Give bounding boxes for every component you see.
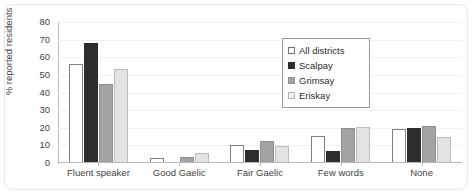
bar[interactable] bbox=[260, 141, 274, 162]
bar-group-bars bbox=[381, 21, 462, 162]
y-tick-label: 30 bbox=[12, 105, 50, 115]
x-tick-label: Few words bbox=[300, 167, 381, 178]
y-tick-label: 20 bbox=[12, 123, 50, 133]
x-tick-label: Good Gaelic bbox=[139, 167, 220, 178]
bar[interactable] bbox=[114, 69, 128, 162]
legend-item-label: All districts bbox=[299, 45, 344, 56]
bar[interactable] bbox=[245, 150, 259, 162]
bar[interactable] bbox=[407, 128, 421, 162]
y-tick-label: 10 bbox=[12, 140, 50, 150]
bar-group: None bbox=[381, 21, 462, 162]
y-tick-label: 60 bbox=[12, 52, 50, 62]
bar[interactable] bbox=[275, 146, 289, 162]
bar[interactable] bbox=[356, 127, 370, 162]
bar[interactable] bbox=[437, 137, 451, 162]
bar[interactable] bbox=[392, 129, 406, 162]
x-tick-label: Fluent speaker bbox=[58, 167, 139, 178]
bar[interactable] bbox=[84, 43, 98, 162]
bar[interactable] bbox=[195, 153, 209, 162]
bar[interactable] bbox=[422, 126, 436, 162]
legend-item[interactable]: Scalpay bbox=[288, 58, 364, 73]
bar-group-bars bbox=[58, 21, 139, 162]
bar-group-bars bbox=[139, 21, 220, 162]
bar[interactable] bbox=[326, 151, 340, 162]
x-tick-mark bbox=[422, 162, 423, 166]
legend-item-label: Grimsay bbox=[299, 75, 334, 86]
bar[interactable] bbox=[311, 136, 325, 162]
legend-item[interactable]: Grimsay bbox=[288, 73, 364, 88]
x-tick-mark bbox=[341, 162, 342, 166]
legend-swatch-icon bbox=[288, 47, 295, 54]
legend-item[interactable]: Eriskay bbox=[288, 88, 364, 103]
bar-group: Fluent speaker bbox=[58, 21, 139, 162]
bar[interactable] bbox=[150, 158, 164, 162]
bar[interactable] bbox=[180, 157, 194, 162]
y-tick-label: 80 bbox=[12, 17, 50, 27]
bar[interactable] bbox=[99, 84, 113, 162]
legend-swatch-icon bbox=[288, 77, 295, 84]
y-tick-label: 70 bbox=[12, 35, 50, 45]
x-tick-label: None bbox=[381, 167, 462, 178]
bar-group: Good Gaelic bbox=[139, 21, 220, 162]
bar[interactable] bbox=[341, 128, 355, 162]
legend: All districtsScalpayGrimsayEriskay bbox=[282, 38, 370, 108]
legend-item-label: Eriskay bbox=[299, 90, 330, 101]
bar[interactable] bbox=[230, 145, 244, 162]
legend-swatch-icon bbox=[288, 92, 295, 99]
x-tick-mark bbox=[98, 162, 99, 166]
x-tick-label: Fair Gaelic bbox=[220, 167, 301, 178]
x-tick-mark bbox=[179, 162, 180, 166]
legend-swatch-icon bbox=[288, 62, 295, 69]
bar[interactable] bbox=[69, 64, 83, 162]
plot-area: Fluent speakerGood GaelicFair GaelicFew … bbox=[58, 22, 462, 163]
x-tick-mark bbox=[260, 162, 261, 166]
legend-item[interactable]: All districts bbox=[288, 43, 364, 58]
y-tick-label: 0 bbox=[12, 158, 50, 168]
y-tick-label: 50 bbox=[12, 70, 50, 80]
legend-item-label: Scalpay bbox=[299, 60, 333, 71]
y-tick-label: 40 bbox=[12, 88, 50, 98]
chart-figure: % reported residents 01020304050607080 F… bbox=[0, 0, 472, 196]
